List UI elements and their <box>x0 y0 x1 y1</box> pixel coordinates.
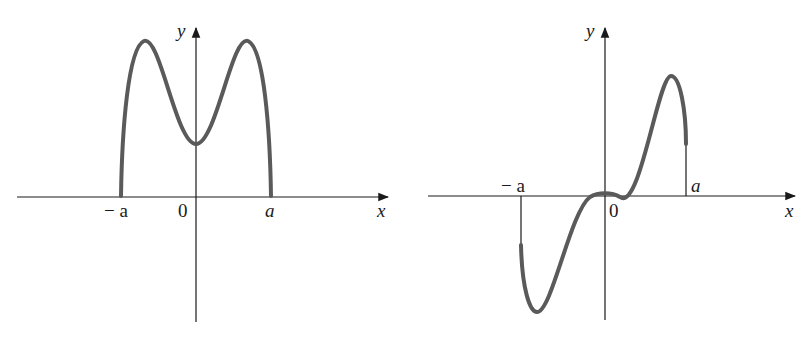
x-axis-label: x <box>376 200 386 221</box>
curve-odd <box>521 76 686 312</box>
tick-label-pos-a: a <box>265 200 275 221</box>
x-axis-label: x <box>784 200 794 221</box>
tick-label-neg-a: − a <box>501 175 525 196</box>
figure: y x − a 0 a y x − a 0 a <box>0 0 812 343</box>
graph-odd-function: y x − a 0 a <box>428 20 795 320</box>
tick-label-pos-a: a <box>691 175 701 196</box>
y-axis-label: y <box>584 20 595 41</box>
y-axis-label: y <box>175 20 186 41</box>
graph-even-function: y x − a 0 a <box>17 20 388 322</box>
tick-label-origin: 0 <box>178 200 188 221</box>
tick-label-origin: 0 <box>609 200 619 221</box>
tick-label-neg-a: − a <box>104 200 128 221</box>
